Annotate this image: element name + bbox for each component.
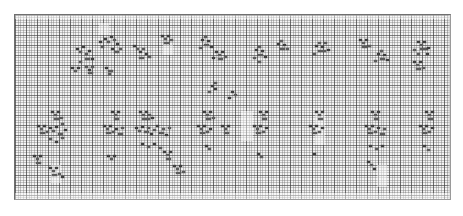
- filled-cell[interactable]: [164, 38, 167, 40]
- filled-cell[interactable]: [110, 36, 113, 38]
- filled-cell[interactable]: [315, 125, 318, 127]
- filled-cell[interactable]: [88, 50, 91, 52]
- filled-cell[interactable]: [203, 125, 206, 127]
- filled-cell[interactable]: [313, 153, 316, 155]
- filled-cell[interactable]: [258, 46, 261, 48]
- filled-cell[interactable]: [215, 51, 218, 53]
- filled-cell[interactable]: [365, 125, 368, 127]
- filled-cell[interactable]: [40, 132, 45, 134]
- filled-cell[interactable]: [111, 111, 114, 113]
- filled-cell[interactable]: [214, 88, 217, 90]
- filled-cell[interactable]: [309, 125, 312, 127]
- filled-cell[interactable]: [113, 39, 116, 41]
- filled-cell[interactable]: [218, 54, 221, 56]
- filled-cell[interactable]: [420, 44, 423, 46]
- filled-cell[interactable]: [377, 127, 380, 129]
- filled-cell[interactable]: [374, 131, 377, 133]
- filled-cell[interactable]: [88, 69, 91, 71]
- filled-cell[interactable]: [321, 111, 324, 113]
- filled-cell[interactable]: [211, 85, 214, 87]
- filled-cell[interactable]: [170, 39, 173, 41]
- filled-cell[interactable]: [114, 114, 117, 116]
- filled-cell[interactable]: [49, 127, 52, 129]
- filled-cell[interactable]: [61, 137, 64, 139]
- filled-cell[interactable]: [413, 61, 416, 63]
- filled-cell[interactable]: [228, 97, 231, 99]
- filled-cell[interactable]: [428, 131, 431, 133]
- filled-cell[interactable]: [206, 118, 211, 120]
- filled-cell[interactable]: [142, 114, 145, 116]
- filled-cell[interactable]: [431, 127, 434, 129]
- filled-cell[interactable]: [286, 48, 289, 50]
- filled-cell[interactable]: [256, 128, 259, 130]
- filled-cell[interactable]: [145, 53, 148, 55]
- filled-cell[interactable]: [115, 128, 118, 130]
- filled-cell[interactable]: [162, 128, 165, 130]
- filled-cell[interactable]: [206, 114, 209, 116]
- filled-cell[interactable]: [209, 111, 212, 113]
- filled-cell[interactable]: [422, 132, 427, 134]
- filled-cell[interactable]: [224, 56, 227, 58]
- filled-cell[interactable]: [318, 114, 321, 116]
- filled-cell[interactable]: [114, 51, 119, 53]
- filled-cell[interactable]: [197, 125, 200, 127]
- filled-cell[interactable]: [261, 50, 264, 52]
- filled-cell[interactable]: [224, 128, 227, 130]
- filled-cell[interactable]: [200, 132, 205, 134]
- filled-cell[interactable]: [265, 127, 268, 129]
- filled-cell[interactable]: [214, 82, 217, 84]
- filled-cell[interactable]: [173, 165, 176, 167]
- filled-cell[interactable]: [208, 148, 211, 150]
- filled-cell[interactable]: [210, 46, 213, 48]
- filled-cell[interactable]: [324, 42, 327, 44]
- filled-cell[interactable]: [428, 114, 431, 116]
- filled-cell[interactable]: [79, 51, 82, 53]
- filled-cell[interactable]: [103, 125, 106, 127]
- filled-cell[interactable]: [88, 72, 93, 74]
- filled-cell[interactable]: [371, 125, 374, 127]
- filled-cell[interactable]: [139, 57, 144, 59]
- filled-cell[interactable]: [386, 59, 389, 61]
- filled-cell[interactable]: [85, 58, 90, 60]
- filled-cell[interactable]: [55, 126, 58, 128]
- filled-cell[interactable]: [422, 128, 425, 130]
- filled-cell[interactable]: [156, 125, 159, 127]
- filled-cell[interactable]: [106, 132, 111, 134]
- filled-cell[interactable]: [159, 132, 164, 134]
- filled-cell[interactable]: [383, 54, 386, 56]
- filled-cell[interactable]: [182, 171, 185, 173]
- filled-cell[interactable]: [321, 46, 324, 48]
- filled-cell[interactable]: [121, 127, 124, 129]
- filled-cell[interactable]: [205, 145, 208, 147]
- filled-cell[interactable]: [153, 143, 156, 145]
- filled-cell[interactable]: [60, 117, 63, 119]
- filled-cell[interactable]: [416, 64, 419, 66]
- filled-cell[interactable]: [280, 40, 283, 42]
- filled-cell[interactable]: [315, 111, 318, 113]
- filled-cell[interactable]: [61, 176, 64, 178]
- filled-cell[interactable]: [99, 41, 102, 43]
- filled-cell[interactable]: [277, 43, 280, 45]
- filled-cell[interactable]: [36, 162, 41, 164]
- filled-cell[interactable]: [231, 91, 234, 93]
- filled-cell[interactable]: [206, 131, 209, 133]
- filled-cell[interactable]: [133, 45, 136, 47]
- filled-cell[interactable]: [280, 48, 285, 50]
- filled-cell[interactable]: [91, 66, 94, 68]
- filled-cell[interactable]: [40, 128, 43, 130]
- filled-cell[interactable]: [431, 111, 434, 113]
- filled-cell[interactable]: [262, 118, 267, 120]
- filled-cell[interactable]: [107, 155, 110, 157]
- filled-cell[interactable]: [164, 42, 169, 44]
- filled-cell[interactable]: [167, 35, 170, 37]
- filled-cell[interactable]: [362, 42, 365, 44]
- filled-cell[interactable]: [318, 50, 326, 52]
- filled-cell[interactable]: [85, 66, 88, 68]
- filled-cell[interactable]: [104, 38, 107, 40]
- filled-cell[interactable]: [118, 133, 123, 135]
- filled-cell[interactable]: [61, 123, 64, 125]
- filled-cell[interactable]: [260, 156, 263, 158]
- filled-cell[interactable]: [163, 151, 166, 153]
- filled-cell[interactable]: [377, 53, 380, 55]
- filled-cell[interactable]: [373, 168, 376, 170]
